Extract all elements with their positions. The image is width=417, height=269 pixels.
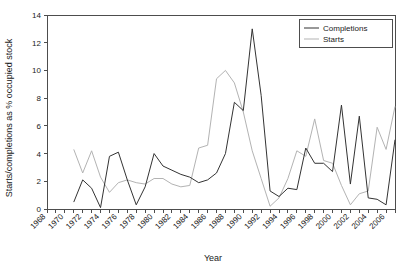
x-tick-label: 1982	[153, 212, 172, 231]
x-tick-label: 1974	[82, 212, 101, 231]
x-tick-label: 1986	[189, 212, 208, 231]
y-axis-title: Starts/completions as % occupied stock	[4, 38, 14, 197]
x-tick-label: 1994	[260, 212, 279, 231]
chart-container: 02468101214 1968197019721974197619781980…	[0, 0, 417, 269]
x-tick-label: 2006	[368, 212, 387, 231]
chart-legend: CompletionsStarts	[299, 19, 392, 47]
x-tick-label: 1992	[243, 212, 262, 231]
x-tick-label: 1980	[136, 212, 155, 231]
x-tick-label: 1978	[118, 212, 137, 231]
series-line-starts	[74, 70, 395, 206]
series-group	[74, 29, 395, 208]
line-chart: 02468101214 1968197019721974197619781980…	[0, 0, 417, 269]
y-tick-label: 12	[32, 39, 41, 48]
x-axis-ticks: 1968197019721974197619781980198219841986…	[28, 209, 395, 231]
x-tick-label: 1988	[207, 212, 226, 231]
y-tick-label: 2	[37, 177, 42, 186]
x-tick-label: 2000	[314, 212, 333, 231]
y-tick-label: 6	[37, 122, 42, 131]
x-tick-label: 2004	[350, 212, 369, 231]
x-tick-label: 1970	[46, 212, 65, 231]
x-tick-label: 2002	[332, 212, 351, 231]
y-tick-label: 4	[37, 150, 42, 159]
y-tick-label: 8	[37, 94, 42, 103]
y-axis-ticks: 02468101214	[32, 11, 47, 214]
x-tick-label: 1968	[28, 212, 47, 231]
y-tick-label: 10	[32, 66, 41, 75]
x-tick-label: 1996	[278, 212, 297, 231]
legend-label-completions: Completions	[323, 24, 367, 33]
x-tick-label: 1990	[225, 212, 244, 231]
series-line-completions	[74, 29, 395, 208]
x-tick-label: 1976	[100, 212, 119, 231]
legend-label-starts: Starts	[323, 35, 344, 44]
x-tick-label: 1984	[171, 212, 190, 231]
x-axis-title: Year	[204, 253, 222, 263]
y-tick-label: 14	[32, 11, 41, 20]
x-tick-label: 1972	[64, 212, 83, 231]
x-tick-label: 1998	[296, 212, 315, 231]
